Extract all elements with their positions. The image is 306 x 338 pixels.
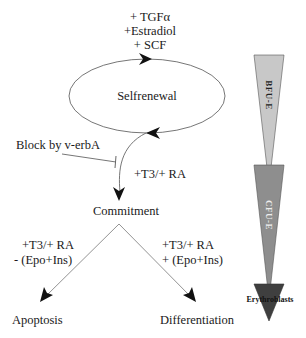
stage-bfu-e-label: BFU-E xyxy=(264,80,274,110)
commitment-label: Commitment xyxy=(93,204,159,218)
commitment-arrow-icon xyxy=(113,187,125,201)
erythroid-differentiation-diagram: + TGFα +Estradiol + SCF Selfrenewal Bloc… xyxy=(0,0,306,338)
block-line xyxy=(62,154,116,162)
differentiation-outcome: Differentiation xyxy=(160,313,234,327)
stage-cfu-e-label: CFU-E xyxy=(264,200,274,230)
return-to-cycle-line xyxy=(119,133,146,192)
factor-estradiol: +Estradiol xyxy=(124,24,176,38)
factor-tgf-alpha: + TGFα xyxy=(130,10,170,24)
stage-cfu-e-triangle xyxy=(254,165,284,300)
commitment-signal-label: +T3/+ RA xyxy=(134,167,186,181)
block-bar-icon xyxy=(115,156,116,168)
apoptosis-outcome: Apoptosis xyxy=(12,313,63,327)
differentiation-signal-line1: +T3/+ RA xyxy=(162,238,214,252)
differentiation-signal-line2: + (Epo+Ins) xyxy=(162,253,223,267)
selfrenewal-label: Selfrenewal xyxy=(117,89,177,103)
apoptosis-signal-line1: +T3/+ RA xyxy=(22,238,74,252)
apoptosis-signal-line2: - (Epo+Ins) xyxy=(14,253,72,267)
factor-scf: + SCF xyxy=(134,38,166,52)
apoptosis-arrow-icon xyxy=(40,287,53,302)
stage-erythroblasts-label: Erythroblasts xyxy=(247,295,294,304)
block-label: Block by v-erbA xyxy=(16,138,100,152)
differentiation-arrow-icon xyxy=(183,287,196,302)
